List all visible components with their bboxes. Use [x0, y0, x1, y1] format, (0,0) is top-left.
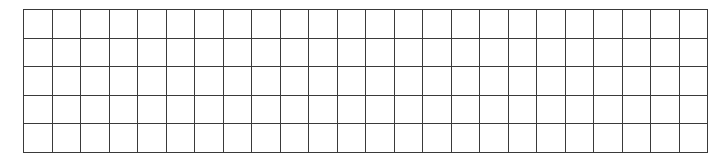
grid-cell — [252, 10, 281, 39]
grid-cell — [338, 124, 367, 153]
grid-cell — [110, 96, 139, 125]
grid-cell — [195, 39, 224, 68]
grid-cell — [138, 10, 167, 39]
grid-cell — [452, 10, 481, 39]
grid-cell — [24, 10, 53, 39]
grid-cell — [366, 39, 395, 68]
grid-cell — [423, 124, 452, 153]
grid-cell — [594, 124, 623, 153]
grid-cell — [509, 10, 538, 39]
grid-cell — [594, 10, 623, 39]
grid-cell — [309, 10, 338, 39]
grid-cell — [195, 67, 224, 96]
grid-cell — [281, 124, 310, 153]
grid-cell — [53, 39, 82, 68]
grid-cell — [537, 39, 566, 68]
grid-cell — [195, 96, 224, 125]
grid-cell — [167, 39, 196, 68]
grid-cell — [281, 39, 310, 68]
grid-cell — [623, 10, 652, 39]
grid-cell — [53, 67, 82, 96]
grid-cell — [423, 39, 452, 68]
grid-cell — [309, 67, 338, 96]
grid-cell — [395, 96, 424, 125]
grid-cell — [53, 10, 82, 39]
grid-cell — [480, 39, 509, 68]
grid-cell — [252, 124, 281, 153]
grid-cell — [138, 39, 167, 68]
grid-cell — [480, 96, 509, 125]
grid-cell — [224, 124, 253, 153]
grid-cell — [53, 124, 82, 153]
grid-cell — [566, 96, 595, 125]
grid-cell — [138, 67, 167, 96]
blank-grid — [23, 9, 708, 153]
grid-cell — [594, 96, 623, 125]
grid-cell — [651, 10, 680, 39]
grid-cell — [680, 10, 709, 39]
grid-cell — [167, 96, 196, 125]
grid-cell — [480, 10, 509, 39]
grid-cell — [452, 67, 481, 96]
grid-cell — [623, 96, 652, 125]
grid-cell — [81, 10, 110, 39]
grid-cell — [81, 124, 110, 153]
grid-cell — [509, 67, 538, 96]
grid-cell — [395, 39, 424, 68]
grid-cell — [566, 124, 595, 153]
grid-cell — [24, 67, 53, 96]
grid-cell — [195, 10, 224, 39]
grid-cell — [680, 124, 709, 153]
grid-cell — [53, 96, 82, 125]
grid-cell — [224, 39, 253, 68]
grid-cell — [138, 124, 167, 153]
grid-cell — [309, 96, 338, 125]
grid-cell — [423, 10, 452, 39]
grid-cell — [594, 67, 623, 96]
grid-cell — [623, 39, 652, 68]
grid-cell — [81, 96, 110, 125]
grid-cell — [167, 124, 196, 153]
grid-cell — [623, 124, 652, 153]
grid-cell — [167, 67, 196, 96]
grid-cell — [651, 96, 680, 125]
grid-cell — [224, 10, 253, 39]
grid-cell — [24, 96, 53, 125]
grid-cell — [566, 67, 595, 96]
grid-cell — [395, 124, 424, 153]
grid-cell — [281, 67, 310, 96]
grid-cell — [252, 39, 281, 68]
grid-cell — [480, 124, 509, 153]
grid-cell — [480, 67, 509, 96]
grid-cell — [338, 96, 367, 125]
grid-cell — [680, 67, 709, 96]
grid-cell — [395, 10, 424, 39]
grid-cell — [623, 67, 652, 96]
grid-cell — [224, 67, 253, 96]
grid-cell — [138, 96, 167, 125]
grid-cell — [281, 10, 310, 39]
grid-cell — [81, 39, 110, 68]
grid-cell — [566, 10, 595, 39]
grid-cell — [110, 10, 139, 39]
grid-cell — [110, 67, 139, 96]
grid-cell — [366, 124, 395, 153]
grid-cell — [366, 67, 395, 96]
grid-cell — [366, 10, 395, 39]
grid-cell — [167, 10, 196, 39]
grid-cell — [423, 67, 452, 96]
grid-cell — [309, 124, 338, 153]
grid-cell — [452, 39, 481, 68]
grid-cell — [338, 39, 367, 68]
grid-cell — [224, 96, 253, 125]
grid-cell — [594, 39, 623, 68]
grid-cell — [281, 96, 310, 125]
grid-cell — [338, 10, 367, 39]
grid-cell — [537, 124, 566, 153]
grid-cell — [566, 39, 595, 68]
grid-cell — [366, 96, 395, 125]
grid-cell — [81, 67, 110, 96]
grid-cell — [537, 96, 566, 125]
grid-cell — [252, 67, 281, 96]
grid-cell — [651, 124, 680, 153]
